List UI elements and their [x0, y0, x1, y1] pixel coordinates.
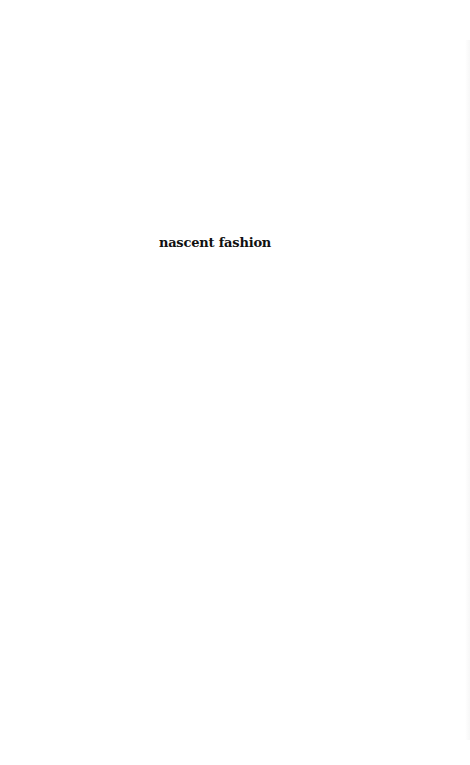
- page-title: nascent fashion: [0, 233, 430, 253]
- right-edge-strip: [465, 40, 470, 740]
- page-container: nascent fashion: [0, 0, 470, 765]
